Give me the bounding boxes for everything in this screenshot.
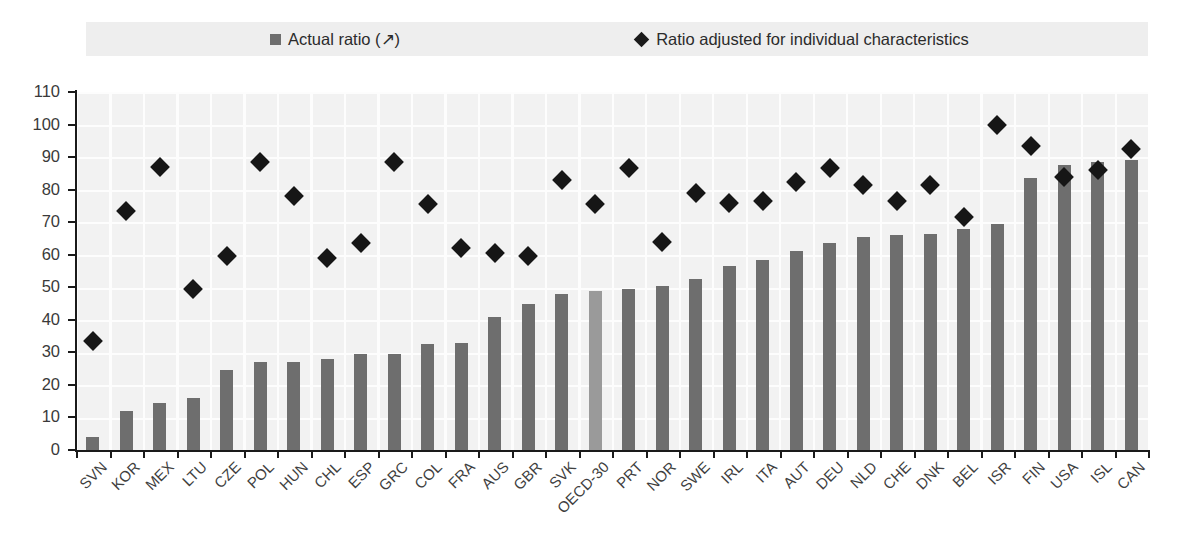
- bar-gbr[interactable]: [522, 304, 535, 450]
- y-axis-tick: [68, 254, 77, 256]
- bar-grc[interactable]: [388, 354, 401, 450]
- plot-area: [76, 92, 1148, 450]
- x-label-ltu[interactable]: LTU: [179, 458, 210, 489]
- x-axis-tick: [612, 450, 614, 458]
- x-axis-tick: [713, 450, 715, 458]
- x-label-col[interactable]: COL: [411, 458, 445, 492]
- y-axis-tick-label: 30: [20, 343, 60, 360]
- x-label-irl[interactable]: IRL: [718, 458, 747, 487]
- x-axis-tick: [143, 450, 145, 458]
- bar-prt[interactable]: [622, 289, 635, 450]
- bar-col[interactable]: [421, 344, 434, 450]
- x-axis-tick: [847, 450, 849, 458]
- bar-kor[interactable]: [120, 411, 133, 450]
- bar-fin[interactable]: [1024, 178, 1037, 450]
- x-axis-tick: [780, 450, 782, 458]
- x-label-cze[interactable]: CZE: [210, 458, 243, 491]
- x-label-gbr[interactable]: GBR: [510, 458, 545, 493]
- x-label-aus[interactable]: AUS: [478, 458, 512, 492]
- x-label-can[interactable]: CAN: [1114, 458, 1149, 493]
- bar-aut[interactable]: [790, 251, 803, 450]
- x-label-isl[interactable]: ISL: [1087, 458, 1115, 486]
- x-label-pol[interactable]: POL: [244, 458, 277, 491]
- x-axis-tick: [344, 450, 346, 458]
- x-label-nor[interactable]: NOR: [643, 458, 679, 494]
- x-axis-tick: [1048, 450, 1050, 458]
- bar-che[interactable]: [890, 235, 903, 450]
- x-axis-tick: [579, 450, 581, 458]
- x-axis-tick: [210, 450, 212, 458]
- bar-nld[interactable]: [857, 237, 870, 450]
- bar-oecd-30[interactable]: [589, 291, 602, 450]
- y-axis-tick-label: 100: [20, 116, 60, 133]
- bar-svn[interactable]: [86, 437, 99, 450]
- y-axis-tick: [68, 221, 77, 223]
- y-axis-tick: [68, 286, 77, 288]
- x-label-dnk[interactable]: DNK: [913, 458, 948, 493]
- bar-irl[interactable]: [723, 266, 736, 450]
- bar-can[interactable]: [1125, 160, 1138, 450]
- bar-ltu[interactable]: [187, 398, 200, 450]
- legend-diamond-marker-icon: [634, 31, 650, 47]
- x-label-aut[interactable]: AUT: [780, 458, 813, 491]
- x-label-bel[interactable]: BEL: [948, 458, 980, 490]
- x-axis-tick: [1148, 450, 1150, 458]
- x-label-ita[interactable]: ITA: [752, 458, 780, 486]
- x-label-usa[interactable]: USA: [1047, 458, 1081, 492]
- bar-deu[interactable]: [823, 243, 836, 450]
- bar-aus[interactable]: [488, 317, 501, 450]
- x-axis-tick: [76, 450, 78, 458]
- legend-item-actual-ratio[interactable]: Actual ratio (↗): [270, 30, 400, 49]
- x-label-fin[interactable]: FIN: [1018, 458, 1047, 487]
- bar-isl[interactable]: [1091, 162, 1104, 450]
- x-axis-tick: [512, 450, 514, 458]
- x-axis-tick: [244, 450, 246, 458]
- y-axis-tick-label: 0: [20, 441, 60, 458]
- bar-usa[interactable]: [1058, 165, 1071, 450]
- bar-ita[interactable]: [756, 260, 769, 450]
- x-label-hun[interactable]: HUN: [276, 458, 311, 493]
- y-axis-tick-label: 90: [20, 148, 60, 165]
- x-label-mex[interactable]: MEX: [142, 458, 177, 493]
- bar-chl[interactable]: [321, 359, 334, 450]
- y-axis-tick-label: 40: [20, 311, 60, 328]
- plot-gridlines: [76, 92, 1148, 450]
- bar-nor[interactable]: [656, 286, 669, 450]
- x-label-grc[interactable]: GRC: [375, 458, 411, 494]
- legend-label-adjusted-ratio: Ratio adjusted for individual characteri…: [656, 30, 969, 49]
- bar-swe[interactable]: [689, 279, 702, 450]
- y-axis-tick-label: 80: [20, 181, 60, 198]
- bar-pol[interactable]: [254, 362, 267, 450]
- bar-esp[interactable]: [354, 354, 367, 450]
- bar-isr[interactable]: [991, 224, 1004, 450]
- x-label-deu[interactable]: DEU: [812, 458, 847, 493]
- x-label-che[interactable]: CHE: [879, 458, 914, 493]
- bar-mex[interactable]: [153, 403, 166, 450]
- bar-bel[interactable]: [957, 229, 970, 450]
- x-axis-tick: [914, 450, 916, 458]
- x-label-nld[interactable]: NLD: [847, 458, 880, 491]
- chart-figure: Actual ratio (↗) Ratio adjusted for indi…: [0, 0, 1203, 548]
- x-label-svn[interactable]: SVN: [76, 458, 110, 492]
- x-label-prt[interactable]: PRT: [613, 458, 646, 491]
- y-axis-line: [75, 90, 77, 452]
- x-axis-tick: [646, 450, 648, 458]
- x-axis-tick: [1115, 450, 1117, 458]
- x-label-fra[interactable]: FRA: [445, 458, 478, 491]
- y-axis-tick: [68, 124, 77, 126]
- x-axis-tick: [378, 450, 380, 458]
- y-axis-tick: [68, 416, 77, 418]
- legend-item-adjusted-ratio[interactable]: Ratio adjusted for individual characteri…: [636, 30, 969, 49]
- x-label-swe[interactable]: SWE: [676, 458, 712, 494]
- x-label-kor[interactable]: KOR: [108, 458, 143, 493]
- bar-svk[interactable]: [555, 294, 568, 450]
- bar-hun[interactable]: [287, 362, 300, 450]
- x-axis-tick: [277, 450, 279, 458]
- bar-cze[interactable]: [220, 370, 233, 450]
- y-axis-tick-label: 110: [20, 83, 60, 100]
- bar-dnk[interactable]: [924, 234, 937, 450]
- x-label-chl[interactable]: CHL: [311, 458, 344, 491]
- bar-fra[interactable]: [455, 343, 468, 450]
- x-label-isr[interactable]: ISR: [984, 458, 1014, 488]
- x-label-esp[interactable]: ESP: [344, 458, 377, 491]
